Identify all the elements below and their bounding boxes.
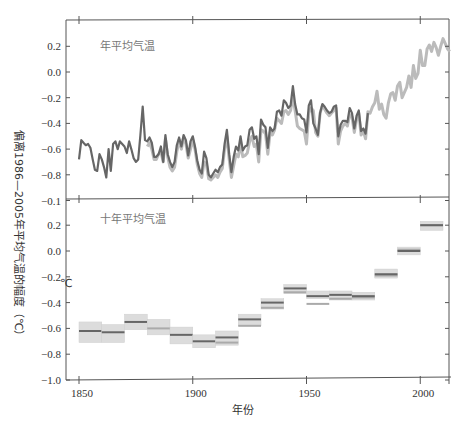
x-tick-label: 1900 — [185, 387, 208, 399]
panel-divider — [66, 197, 449, 199]
decade-range-box — [147, 319, 170, 334]
y-tick-label-top: 0.2 — [47, 40, 61, 52]
y-tick-label-top: −0.1 — [41, 195, 61, 207]
decade-range-box — [79, 322, 102, 343]
annual-series-dark — [79, 86, 368, 177]
y-tick-label-bottom: −0.2 — [41, 271, 61, 283]
y-tick-label-top: −0.8 — [41, 169, 61, 181]
y-tick-label-top: −0.4 — [41, 117, 61, 129]
y-tick-label-bottom: −0.8 — [41, 348, 61, 360]
y-tick-label-bottom: 0.0 — [47, 245, 61, 257]
top-panel-title: 年平均气温 — [100, 39, 155, 53]
y-tick-label-bottom: −1.0 — [41, 374, 61, 386]
unit-label: ℃ — [60, 277, 72, 290]
y-tick-label-top: 0.0 — [47, 66, 61, 78]
decade-range-box — [307, 291, 330, 299]
x-axis-label: 年份 — [232, 403, 254, 417]
bottom-panel-title: 十年平均气温 — [100, 212, 166, 226]
temperature-chart: 0.20.0−0.2−0.4−0.6−0.8−0.10.20.0−0.2−0.4… — [0, 0, 467, 429]
y-tick-label-bottom: 0.2 — [47, 219, 61, 231]
decade-range-box — [102, 325, 125, 343]
y-axis-label: 偏离1986—2005年平均气温的幅度（℃） — [12, 130, 26, 341]
y-tick-label-bottom: −0.4 — [41, 297, 61, 309]
y-tick-label-top: −0.6 — [41, 143, 61, 155]
x-axis-line — [66, 377, 451, 380]
annual-series-light — [147, 39, 450, 180]
x-tick-label: 1850 — [71, 387, 94, 399]
decadal-temperature-boxes — [79, 221, 443, 347]
y-tick-label-top: −0.2 — [41, 92, 61, 104]
y-tick-label-bottom: −0.6 — [41, 322, 61, 334]
x-tick-label: 1950 — [299, 387, 322, 399]
annual-temperature-lines — [79, 39, 450, 180]
x-tick-label: 2000 — [412, 387, 435, 399]
